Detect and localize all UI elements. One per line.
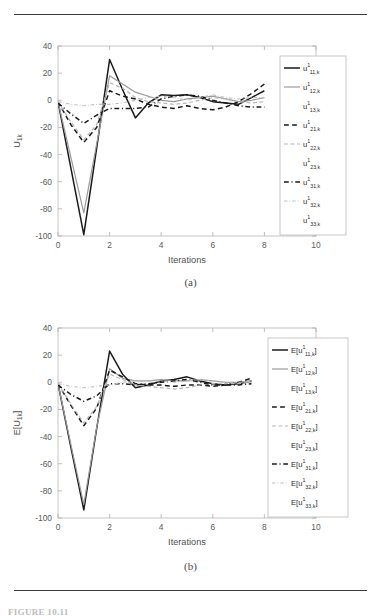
y-tick-label: 0 [47,95,52,105]
y-tick-label: -20 [40,122,52,132]
page-number [0,0,381,7]
subfigure-b-caption: (b) [0,560,381,572]
y-tick-label: -100 [35,231,52,241]
figure-caption: FIGURE 10.11 [8,602,208,616]
y-tick-label: -20 [40,404,52,414]
y-axis-title: U1k [12,134,23,148]
svg-text:E[U1k]: E[U1k] [12,411,23,436]
y-tick-label: 40 [43,323,53,333]
y-tick-label: -60 [40,459,52,469]
x-tick-label: 2 [107,240,112,250]
x-tick-label: 6 [210,240,215,250]
figure-page: 024681040200-20-40-60-80-100IterationsU1… [0,0,381,616]
x-tick-label: 4 [159,522,164,532]
x-tick-label: 10 [311,522,321,532]
x-tick-label: 0 [56,240,61,250]
subfigure-a: 024681040200-20-40-60-80-100IterationsU1… [0,24,381,300]
x-axis-title: Iterations [168,255,206,265]
chart-b-svg: 024681040200-20-40-60-80-100IterationsE[… [0,306,381,558]
y-tick-label: -40 [40,150,52,160]
chart-a-svg: 024681040200-20-40-60-80-100IterationsU1… [0,24,381,276]
x-tick-label: 0 [56,522,61,532]
y-axis-title: E[U1k] [12,411,23,436]
x-tick-label: 4 [159,240,164,250]
subfigure-a-caption: (a) [0,276,381,288]
x-axis-title: Iterations [168,537,206,547]
y-tick-label: -80 [40,486,52,496]
svg-text:U1k: U1k [12,134,23,148]
y-tick-label: -80 [40,204,52,214]
y-tick-label: -60 [40,177,52,187]
y-tick-label: 20 [43,68,53,78]
y-tick-label: 20 [43,350,53,360]
x-tick-label: 2 [107,522,112,532]
y-tick-label: -100 [35,513,52,523]
y-tick-label: -40 [40,432,52,442]
x-tick-label: 8 [262,240,267,250]
x-tick-label: 8 [262,522,267,532]
top-divider-rule [14,14,367,15]
x-tick-label: 6 [210,522,215,532]
y-tick-label: 40 [43,41,53,51]
bottom-divider-rule [14,590,367,591]
y-tick-label: 0 [47,377,52,387]
x-tick-label: 10 [311,240,321,250]
subfigure-b: 024681040200-20-40-60-80-100IterationsE[… [0,306,381,588]
